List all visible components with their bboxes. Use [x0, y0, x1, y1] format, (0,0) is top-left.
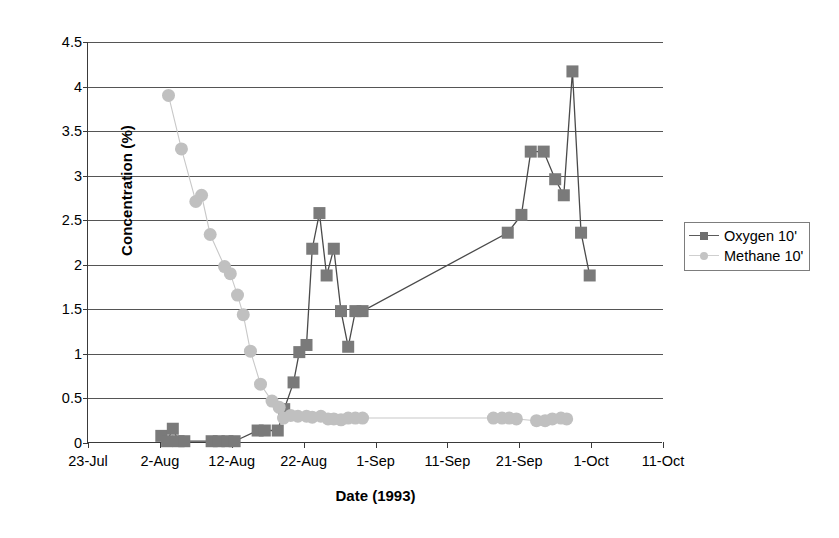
data-point-circle — [162, 89, 175, 102]
y-tick-label: 3.5 — [42, 123, 82, 139]
data-point-square — [558, 189, 570, 201]
data-point-square — [335, 305, 347, 317]
data-point-square — [178, 435, 190, 447]
y-tick-label: 2 — [42, 257, 82, 273]
data-point-square — [259, 425, 271, 437]
x-tick-label: 12-Aug — [208, 453, 255, 469]
y-tick-label: 0 — [42, 435, 82, 451]
data-point-circle — [560, 412, 573, 425]
data-point-circle — [195, 189, 208, 202]
x-tick-label: 11-Oct — [642, 453, 684, 469]
data-point-square — [272, 425, 284, 437]
x-tick-label: 1-Oct — [573, 453, 608, 469]
legend-label-oxygen: Oxygen 10' — [724, 227, 797, 245]
chart-container: 00.511.522.533.544.5 23-Jul2-Aug12-Aug22… — [0, 0, 839, 538]
data-point-circle — [231, 289, 244, 302]
y-tick-label: 2.5 — [42, 212, 82, 228]
data-point-square — [538, 146, 550, 158]
data-point-circle — [237, 308, 250, 321]
series-line — [161, 71, 589, 441]
data-point-circle — [254, 378, 267, 391]
x-axis-title: Date (1993) — [88, 487, 663, 504]
x-tick-label: 1-Sep — [356, 453, 395, 469]
data-point-square — [301, 339, 313, 351]
data-point-circle — [224, 267, 237, 280]
legend-item-oxygen: Oxygen 10' — [689, 226, 803, 246]
data-point-square — [306, 243, 318, 255]
data-point-square — [584, 269, 596, 281]
data-point-circle — [356, 412, 369, 425]
legend-key-circle-icon — [689, 249, 719, 263]
x-tick-label: 21-Sep — [496, 453, 543, 469]
data-point-square — [229, 435, 241, 447]
data-point-square — [161, 435, 173, 447]
data-point-square — [502, 227, 514, 239]
data-point-square — [321, 269, 333, 281]
data-point-circle — [510, 412, 523, 425]
data-point-square — [342, 341, 354, 353]
y-tick-label: 0.5 — [42, 390, 82, 406]
series-oxygen-10- — [155, 65, 595, 447]
data-point-circle — [204, 228, 217, 241]
data-point-square — [566, 65, 578, 77]
data-series-layer — [88, 42, 663, 443]
legend-key-square-icon — [689, 229, 719, 243]
y-tick-label: 3 — [42, 168, 82, 184]
y-tick-label: 1.5 — [42, 301, 82, 317]
x-tick-label: 23-Jul — [68, 453, 108, 469]
data-point-square — [575, 227, 587, 239]
x-tick-label: 2-Aug — [141, 453, 180, 469]
y-axis-title: Concentration (%) — [118, 101, 135, 281]
data-point-square — [357, 305, 369, 317]
x-tick-mark — [663, 442, 664, 448]
data-point-circle — [244, 345, 257, 358]
data-point-circle — [175, 142, 188, 155]
data-point-square — [288, 376, 300, 388]
series-line — [169, 95, 567, 420]
x-tick-label: 11-Sep — [425, 453, 471, 469]
x-tick-label: 22-Aug — [280, 453, 327, 469]
data-point-square — [328, 243, 340, 255]
data-point-square — [549, 173, 561, 185]
data-point-square — [525, 146, 537, 158]
y-tick-label: 1 — [42, 346, 82, 362]
y-tick-label: 4.5 — [42, 34, 82, 50]
data-point-square — [167, 423, 179, 435]
plot-area: 00.511.522.533.544.5 23-Jul2-Aug12-Aug22… — [87, 42, 662, 443]
y-tick-label: 4 — [42, 79, 82, 95]
series-methane-10- — [162, 89, 573, 427]
data-point-square — [515, 209, 527, 221]
legend-item-methane: Methane 10' — [689, 246, 803, 266]
legend-label-methane: Methane 10' — [724, 247, 803, 265]
chart-legend: Oxygen 10' Methane 10' — [684, 222, 810, 271]
data-point-square — [313, 207, 325, 219]
